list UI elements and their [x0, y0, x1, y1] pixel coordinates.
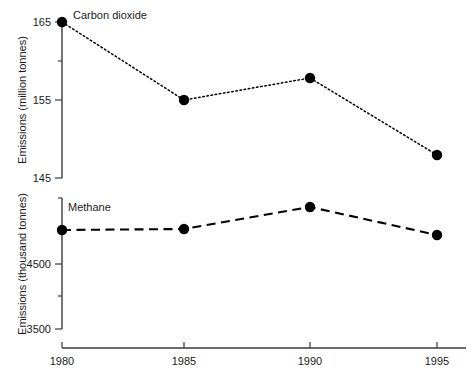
methane-point-1980 — [57, 225, 67, 235]
top-ytick-label-155: 155 — [33, 94, 51, 106]
methane-point-1990 — [305, 202, 315, 212]
xtick-label-1985: 1985 — [172, 355, 196, 367]
xtick-label-1980: 1980 — [50, 355, 74, 367]
carbon-dioxide-point-1990 — [305, 73, 315, 83]
bottom-panel-methane: 4500 3500 Emissions (thousand tonnes) Me… — [16, 193, 442, 335]
x-axis: 1980 1985 1990 1995 — [50, 342, 466, 367]
carbon-dioxide-point-1980 — [57, 17, 67, 27]
top-y-axis-title: Emissions (million tonnes) — [16, 36, 28, 164]
carbon-dioxide-point-1985 — [179, 95, 189, 105]
bottom-y-axis-title: Emissions (thousand tonnes) — [16, 193, 28, 335]
carbon-dioxide-series-label: Carbon dioxide — [73, 9, 147, 21]
methane-series-label: Methane — [68, 201, 111, 213]
top-ytick-label-165: 165 — [33, 16, 51, 28]
bottom-ytick-label-4500: 4500 — [27, 258, 51, 270]
carbon-dioxide-point-1995 — [432, 150, 442, 160]
methane-series-line — [62, 207, 437, 235]
methane-point-1985 — [179, 224, 189, 234]
top-ytick-label-145: 145 — [33, 172, 51, 184]
top-panel-carbon-dioxide: 165 155 145 Emissions (million tonnes) C… — [16, 9, 442, 184]
methane-point-1995 — [432, 230, 442, 240]
carbon-dioxide-series-line — [62, 22, 437, 155]
xtick-label-1995: 1995 — [425, 355, 449, 367]
chart-canvas: 165 155 145 Emissions (million tonnes) C… — [0, 0, 474, 384]
xtick-label-1990: 1990 — [298, 355, 322, 367]
emissions-figure: 165 155 145 Emissions (million tonnes) C… — [0, 0, 474, 384]
bottom-ytick-label-3500: 3500 — [27, 323, 51, 335]
